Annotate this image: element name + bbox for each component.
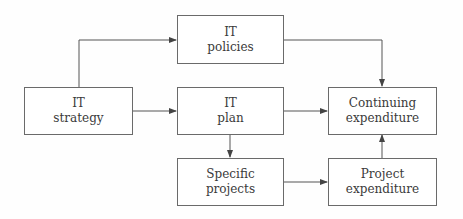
node-label: strategy xyxy=(53,111,103,126)
node-continuing-expenditure: Continuing expenditure xyxy=(328,87,437,135)
node-label: expenditure xyxy=(346,111,419,126)
node-label: Project xyxy=(361,167,404,182)
node-label: IT xyxy=(72,96,85,111)
node-label: Continuing xyxy=(349,96,417,111)
node-it-plan: IT plan xyxy=(177,87,284,135)
node-label: IT xyxy=(224,96,237,111)
node-label: projects xyxy=(206,182,255,197)
node-label: plan xyxy=(217,111,243,126)
edge-policies-to-continuing xyxy=(283,40,382,86)
node-project-expenditure: Project expenditure xyxy=(328,158,437,206)
flowchart-canvas: IT policies IT strategy IT plan Continui… xyxy=(0,0,463,219)
node-label: policies xyxy=(207,40,253,55)
node-label: IT xyxy=(224,25,237,40)
node-it-strategy: IT strategy xyxy=(24,87,133,135)
edge-strategy-to-policies xyxy=(79,40,176,87)
node-label: expenditure xyxy=(346,182,419,197)
node-specific-projects: Specific projects xyxy=(177,158,284,206)
node-it-policies: IT policies xyxy=(177,15,284,64)
node-label: Specific xyxy=(206,167,254,182)
